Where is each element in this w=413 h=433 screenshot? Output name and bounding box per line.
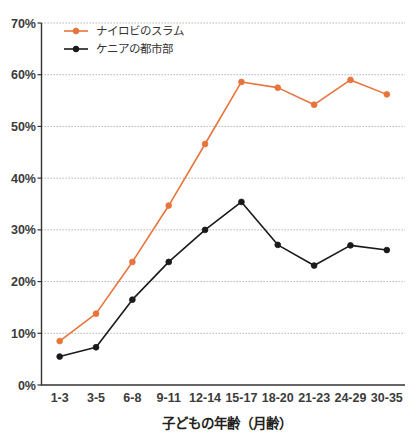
data-point — [93, 344, 99, 350]
data-point — [239, 79, 245, 85]
chart-background — [0, 0, 413, 433]
data-point — [57, 354, 63, 360]
data-point — [311, 102, 317, 108]
legend-swatch-marker — [73, 28, 79, 34]
legend-label: ケニアの都市部 — [96, 42, 173, 55]
x-axis-tick-label: 21-23 — [298, 391, 330, 405]
line-chart: 0%10%20%30%40%50%60%70% 1-33-56-89-1112-… — [0, 0, 413, 433]
data-point — [166, 259, 172, 265]
legend-swatch-marker — [73, 46, 79, 52]
data-point — [239, 199, 245, 205]
x-axis-tick-label: 3-5 — [87, 391, 105, 405]
data-point — [348, 242, 354, 248]
y-axis-tick-label: 40% — [11, 172, 36, 186]
x-axis-tick-label: 15-17 — [225, 391, 257, 405]
data-point — [311, 263, 317, 269]
data-point — [129, 259, 135, 265]
x-axis-tick-label: 6-8 — [123, 391, 141, 405]
data-point — [202, 227, 208, 233]
y-axis-tick-label: 70% — [11, 17, 36, 31]
data-point — [275, 85, 281, 91]
x-axis-title: 子どもの年齢（月齢） — [162, 415, 292, 431]
data-point — [202, 141, 208, 147]
x-axis-tick-label: 18-20 — [262, 391, 294, 405]
data-point — [275, 242, 281, 248]
y-axis-tick-label: 0% — [18, 379, 36, 393]
y-axis-tick-label: 30% — [11, 223, 36, 237]
x-axis-tick-label: 24-29 — [334, 391, 366, 405]
chart-container: 0%10%20%30%40%50%60%70% 1-33-56-89-1112-… — [0, 0, 413, 433]
y-axis-tick-label: 10% — [11, 327, 36, 341]
legend-label: ナイロビのスラム — [96, 25, 184, 37]
y-axis-tick-label: 60% — [11, 68, 36, 82]
x-axis-tick-label: 1-3 — [51, 391, 69, 405]
x-axis-tick-label: 12-14 — [189, 391, 221, 405]
y-axis-tick-label: 50% — [11, 120, 36, 134]
x-axis-ticks-group: 1-33-56-89-1112-1415-1718-2021-2324-2930… — [51, 391, 403, 405]
data-point — [384, 247, 390, 253]
data-point — [93, 311, 99, 317]
x-axis-tick-label: 9-11 — [157, 391, 181, 405]
x-axis-tick-label: 30-35 — [371, 391, 403, 405]
data-point — [129, 297, 135, 303]
data-point — [166, 203, 172, 209]
data-point — [384, 91, 390, 97]
data-point — [57, 338, 63, 344]
y-axis-tick-label: 20% — [11, 275, 36, 289]
data-point — [348, 77, 354, 83]
